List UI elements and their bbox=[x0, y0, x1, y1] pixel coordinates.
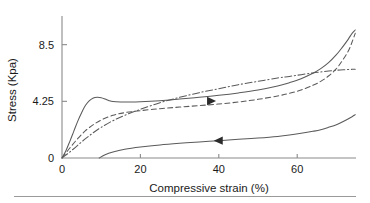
x-tick-label: 40 bbox=[213, 163, 225, 175]
y-tick-label: 0 bbox=[48, 152, 54, 164]
arrow-right-icon bbox=[207, 97, 216, 105]
stress-strain-figure: 04.258.5 0204060 Compressive strain (%) … bbox=[0, 0, 370, 203]
x-tick-label: 60 bbox=[291, 163, 303, 175]
arrow-left-icon bbox=[214, 136, 223, 144]
y-tick-label: 8.5 bbox=[39, 39, 54, 51]
y-axis-label: Stress (Kpa) bbox=[6, 58, 18, 122]
x-axis-label: Compressive strain (%) bbox=[149, 182, 269, 194]
x-tick-label: 0 bbox=[59, 163, 65, 175]
curve-dash-dot-curve bbox=[62, 69, 355, 158]
curve-loading-solid bbox=[62, 30, 355, 158]
x-axis-ticks: 0204060 bbox=[59, 154, 303, 175]
axes bbox=[62, 16, 356, 158]
x-tick-label: 20 bbox=[134, 163, 146, 175]
curve-dashed-curve bbox=[62, 33, 355, 158]
data-curves bbox=[62, 30, 355, 158]
y-tick-label: 4.25 bbox=[33, 95, 54, 107]
chart-canvas: 04.258.5 0204060 Compressive strain (%) … bbox=[0, 0, 370, 203]
curve-unloading-curve bbox=[99, 115, 355, 158]
